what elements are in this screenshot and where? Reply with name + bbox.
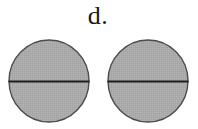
figure-panel: d. bbox=[0, 0, 198, 129]
circle-pair-group bbox=[0, 0, 198, 129]
left-circle bbox=[8, 39, 90, 123]
right-circle bbox=[107, 39, 189, 123]
